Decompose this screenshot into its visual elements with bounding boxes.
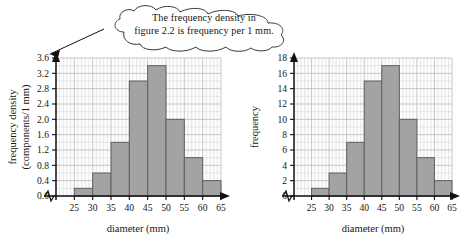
histogram-bar <box>148 66 166 196</box>
callout-line-2: figure 2.2 is frequency per 1 mm. <box>116 24 292 37</box>
histogram-bar <box>329 173 347 196</box>
y-axis-ticks: 0.00.40.81.21.62.02.42.83.23.6 <box>37 52 56 201</box>
x-axis-ticks: 253035404550556065 <box>307 196 457 213</box>
y-tick-label: 2 <box>282 175 287 186</box>
x-tick-label: 65 <box>216 202 226 213</box>
x-tick-label: 55 <box>412 202 422 213</box>
y-axis-ticks: 024681012141618 <box>277 52 294 201</box>
frequency-histogram: 024681012141618 253035404550556065 diame… <box>232 46 461 246</box>
figure-root: The frequency density in figure 2.2 is f… <box>0 0 461 246</box>
y-tick-label: 3.6 <box>37 52 49 63</box>
histogram-bar <box>93 173 111 196</box>
x-tick-label: 45 <box>377 202 387 213</box>
histogram-bar <box>111 142 129 196</box>
y-tick-label: 16 <box>277 68 287 79</box>
x-tick-label: 40 <box>359 202 369 213</box>
y-tick-label: 2.0 <box>37 114 49 125</box>
histogram-bar <box>74 188 92 196</box>
frequency-density-histogram: 0.00.40.81.21.62.02.42.83.23.6 253035404… <box>0 46 232 246</box>
y-tick-label: 0.0 <box>37 190 49 201</box>
y-axis-title-line-1: frequency density <box>7 89 18 165</box>
y-tick-label: 10 <box>277 114 287 125</box>
histogram-bar <box>166 119 184 196</box>
x-tick-label: 25 <box>307 202 317 213</box>
x-tick-label: 50 <box>395 202 405 213</box>
plot-area-left: 0.00.40.81.21.62.02.42.83.23.6 253035404… <box>37 52 230 213</box>
y-tick-label: 6 <box>282 144 287 155</box>
x-tick-label: 40 <box>125 202 135 213</box>
histogram-bar <box>417 158 435 196</box>
y-axis-arrowhead <box>290 52 298 62</box>
y-tick-label: 8 <box>282 129 287 140</box>
histogram-bar <box>203 181 221 196</box>
y-tick-label: 2.4 <box>37 98 49 109</box>
y-tick-label: 0.8 <box>37 160 49 171</box>
y-tick-label: 18 <box>277 52 287 63</box>
x-tick-label: 45 <box>143 202 153 213</box>
histogram-bar <box>399 119 417 196</box>
y-axis-arrowhead <box>52 52 60 62</box>
histogram-bar <box>347 142 365 196</box>
y-tick-label: 4 <box>282 160 287 171</box>
x-tick-label: 65 <box>447 202 457 213</box>
callout-line-1: The frequency density in <box>116 11 292 24</box>
x-tick-label: 50 <box>161 202 171 213</box>
y-tick-label: 2.8 <box>37 83 49 94</box>
x-tick-label: 60 <box>430 202 440 213</box>
x-axis-title: diameter (mm) <box>342 223 405 235</box>
x-tick-label: 30 <box>88 202 98 213</box>
x-axis-ticks: 253035404550556065 <box>70 196 226 213</box>
callout-text: The frequency density in figure 2.2 is f… <box>116 11 292 37</box>
y-tick-label: 3.2 <box>37 68 49 79</box>
y-tick-label: 0 <box>282 190 287 201</box>
x-tick-label: 35 <box>106 202 116 213</box>
frequency-plot: 024681012141618 253035404550556065 diame… <box>232 46 461 246</box>
plot-area-right: 024681012141618 253035404550556065 <box>277 52 460 213</box>
y-tick-label: 0.4 <box>37 175 49 186</box>
histogram-bar <box>184 158 202 196</box>
y-axis-title: frequency <box>249 105 260 148</box>
x-axis-title: diameter (mm) <box>107 223 170 235</box>
histogram-bar <box>129 81 147 196</box>
y-tick-label: 14 <box>277 83 287 94</box>
frequency-density-plot: 0.00.40.81.21.62.02.42.83.23.6 253035404… <box>0 46 232 246</box>
x-tick-label: 60 <box>198 202 208 213</box>
y-axis-title-line-2: (components/1 mm) <box>20 84 32 169</box>
histogram-bar <box>364 81 382 196</box>
x-tick-label: 35 <box>342 202 352 213</box>
x-tick-label: 25 <box>70 202 80 213</box>
x-tick-label: 30 <box>324 202 334 213</box>
histogram-bar <box>312 188 330 196</box>
y-tick-label: 1.6 <box>37 129 49 140</box>
y-tick-label: 1.2 <box>37 144 49 155</box>
histogram-bar <box>382 66 400 196</box>
histogram-bar <box>434 181 452 196</box>
y-tick-label: 12 <box>277 98 287 109</box>
x-tick-label: 55 <box>180 202 190 213</box>
